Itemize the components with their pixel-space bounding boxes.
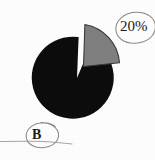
pie-chart-figure: 20% B — [0, 0, 155, 160]
gray-exploded-slice — [84, 25, 120, 67]
series-b-label: B — [32, 128, 41, 142]
percent-label: 20% — [120, 19, 148, 34]
